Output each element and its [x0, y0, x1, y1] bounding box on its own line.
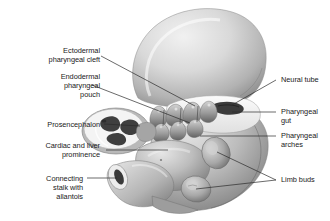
label-neural-tube: Neural tube: [281, 75, 330, 84]
label-pharyngeal-gut: Pharyngeal gut: [281, 107, 330, 125]
label-limb-buds: Limb buds: [281, 175, 330, 184]
prosencephalon-stalk: [136, 122, 156, 141]
label-prosencephalon: Prosencephalon: [0, 120, 100, 129]
label-cardiac-and-liver-prominence: Cardiac and liver prominence: [0, 141, 100, 159]
label-pharyngeal-arches: Pharyngeal arches: [281, 131, 330, 149]
label-connecting-stalk-with-allantois: Connecting stalk with allantois: [0, 174, 83, 202]
label-endodermal-pharyngeal-pouch: Endodermal pharyngeal pouch: [0, 72, 100, 100]
figure-container: Ectodermal pharyngeal cleft Endodermal p…: [0, 0, 330, 221]
label-ectodermal-pharyngeal-cleft: Ectodermal pharyngeal cleft: [0, 46, 100, 64]
head-prominence: [133, 9, 267, 111]
